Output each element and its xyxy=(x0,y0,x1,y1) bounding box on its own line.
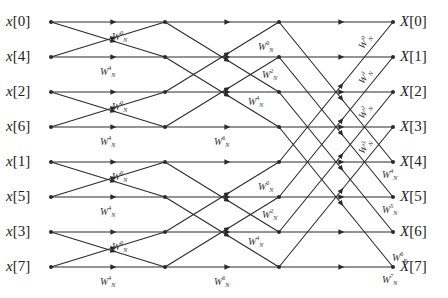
input-label: x[2] xyxy=(6,84,30,99)
butterfly-graph xyxy=(0,0,448,298)
twiddle-factor-stage1: W0N xyxy=(112,30,127,43)
node-dot-icon xyxy=(163,160,167,164)
twiddle-factor-stage2: W0N xyxy=(258,180,273,193)
input-label: x[4] xyxy=(6,49,30,64)
twiddle-factor-stage2: W4N xyxy=(248,235,263,248)
node-dot-icon xyxy=(49,230,53,234)
node-dot-icon xyxy=(163,20,167,24)
input-label: x[1] xyxy=(6,154,30,169)
node-dot-icon xyxy=(163,265,167,269)
node-dot-icon xyxy=(163,195,167,199)
twiddle-factor-stage3: W6N xyxy=(392,251,407,264)
node-dot-icon xyxy=(163,230,167,234)
node-dot-icon xyxy=(163,55,167,59)
node-dot-icon xyxy=(49,160,53,164)
twiddle-factor-stage3: W4N xyxy=(382,168,397,181)
node-dot-icon xyxy=(277,125,281,129)
node-dot-icon xyxy=(391,195,395,199)
input-label: x[3] xyxy=(6,224,30,239)
output-label: X[4] xyxy=(400,154,427,169)
node-dot-icon xyxy=(391,160,395,164)
output-label: X[0] xyxy=(400,14,427,29)
node-dot-icon xyxy=(49,90,53,94)
node-dot-icon xyxy=(391,55,395,59)
twiddle-factor-stage1: W4N xyxy=(100,65,115,78)
twiddle-factor-stage3: W7N xyxy=(382,273,397,286)
input-label: x[0] xyxy=(6,14,30,29)
twiddle-factor-stage1: W4N xyxy=(100,135,115,148)
node-dot-icon xyxy=(391,230,395,234)
input-label: x[6] xyxy=(6,119,30,134)
twiddle-factor-stage2: W2N xyxy=(262,68,277,81)
input-label: x[5] xyxy=(6,189,30,204)
twiddle-factor-stage2: W0N xyxy=(258,40,273,53)
twiddle-factor-stage2: W2N xyxy=(262,208,277,221)
node-dot-icon xyxy=(49,55,53,59)
output-label: X[6] xyxy=(400,224,427,239)
node-dot-icon xyxy=(49,20,53,24)
output-label: X[3] xyxy=(400,119,427,134)
twiddle-factor-stage1: W0N xyxy=(112,170,127,183)
node-dot-icon xyxy=(163,90,167,94)
twiddle-factor-stage2: W6N xyxy=(214,135,229,148)
node-dot-icon xyxy=(277,230,281,234)
twiddle-factor-stage2: W6N xyxy=(214,275,229,288)
node-dot-icon xyxy=(49,195,53,199)
node-dot-icon xyxy=(163,125,167,129)
twiddle-factor-stage1: W4N xyxy=(100,205,115,218)
node-dot-icon xyxy=(277,20,281,24)
input-label: x[7] xyxy=(6,259,30,274)
node-dot-icon xyxy=(277,265,281,269)
node-dot-icon xyxy=(391,125,395,129)
twiddle-factor-stage1: W0N xyxy=(112,100,127,113)
node-dot-icon xyxy=(277,55,281,59)
twiddle-factor-stage2: W4N xyxy=(248,95,263,108)
node-dot-icon xyxy=(391,20,395,24)
node-dot-icon xyxy=(391,265,395,269)
node-dot-icon xyxy=(277,160,281,164)
node-dot-icon xyxy=(277,195,281,199)
node-dot-icon xyxy=(391,90,395,94)
node-dot-icon xyxy=(49,125,53,129)
output-label: X[2] xyxy=(400,84,427,99)
output-label: X[1] xyxy=(400,49,427,64)
twiddle-factor-stage3: W5N xyxy=(382,203,397,216)
output-label: X[5] xyxy=(400,189,427,204)
node-dot-icon xyxy=(277,90,281,94)
twiddle-factor-stage1: W0N xyxy=(112,240,127,253)
node-dot-icon xyxy=(49,265,53,269)
twiddle-factor-stage1: W4N xyxy=(100,275,115,288)
